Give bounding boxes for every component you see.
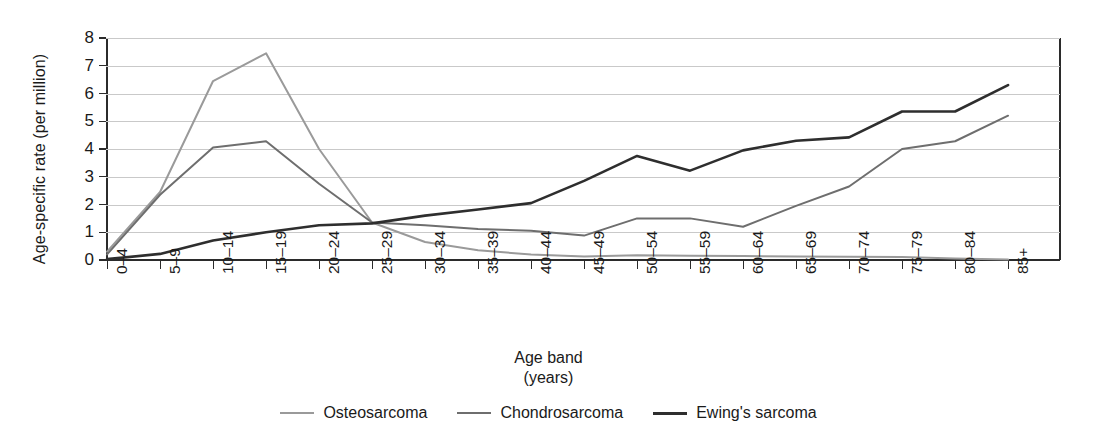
- legend-swatch: [457, 412, 491, 414]
- x-axis-tick: [107, 260, 108, 269]
- y-axis-tick-label: 7: [72, 57, 94, 74]
- x-axis-tick: [743, 260, 744, 269]
- x-axis-tick-label: 20–24: [325, 204, 343, 274]
- x-axis-tick: [1008, 260, 1009, 269]
- y-axis-tick: [99, 232, 106, 233]
- x-axis-tick-label: 45–49: [590, 204, 608, 274]
- x-axis-tick: [637, 260, 638, 269]
- x-axis-tick-label: 0–4: [113, 204, 131, 274]
- x-axis-tick: [955, 260, 956, 269]
- x-axis-tick: [531, 260, 532, 269]
- x-axis-tick-label: 80–84: [961, 204, 979, 274]
- x-axis-tick-label: 85+: [1014, 204, 1032, 274]
- x-axis-tick-label: 50–54: [643, 204, 661, 274]
- y-axis-tick-label: 6: [72, 85, 94, 102]
- x-axis-tick: [160, 260, 161, 269]
- x-axis-tick: [319, 260, 320, 269]
- y-axis-tick-label: 5: [72, 112, 94, 129]
- x-axis-tick-label: 70–74: [855, 204, 873, 274]
- x-axis-tick-label: 65–69: [802, 204, 820, 274]
- x-axis-title: Age band (years): [0, 348, 1097, 387]
- x-axis-title-main: Age band: [0, 348, 1097, 368]
- chart-legend: OsteosarcomaChondrosarcomaEwing's sarcom…: [0, 404, 1097, 422]
- legend-label: Ewing's sarcoma: [696, 404, 816, 422]
- legend-swatch: [653, 412, 687, 415]
- x-axis-title-unit: (years): [0, 368, 1097, 388]
- y-axis-tick: [99, 93, 106, 94]
- x-axis-tick-label: 15–19: [272, 204, 290, 274]
- y-axis-tick: [99, 148, 106, 149]
- x-axis-tick: [584, 260, 585, 269]
- y-axis-tick-label: 0: [72, 251, 94, 268]
- x-axis-tick-label: 25–29: [378, 204, 396, 274]
- legend-item[interactable]: Osteosarcoma: [280, 404, 427, 422]
- y-axis-tick: [99, 121, 106, 122]
- chart-figure: Age-specific rate (per million) 01234567…: [0, 0, 1097, 445]
- y-axis-tick-label: 1: [72, 223, 94, 240]
- y-axis-tick-label: 3: [72, 168, 94, 185]
- x-axis-tick: [372, 260, 373, 269]
- legend-item[interactable]: Chondrosarcoma: [457, 404, 623, 422]
- legend-swatch: [280, 412, 314, 414]
- y-axis-tick: [99, 204, 106, 205]
- x-axis-tick: [902, 260, 903, 269]
- x-axis-tick-label: 75–79: [908, 204, 926, 274]
- y-axis-tick-label: 4: [72, 140, 94, 157]
- y-axis-tick: [99, 37, 106, 38]
- x-axis-tick: [796, 260, 797, 269]
- x-axis-tick: [266, 260, 267, 269]
- x-axis-tick: [478, 260, 479, 269]
- x-axis-tick: [849, 260, 850, 269]
- x-axis-tick: [425, 260, 426, 269]
- x-axis-tick-label: 55–59: [696, 204, 714, 274]
- y-axis-tick: [99, 65, 106, 66]
- x-axis-tick-label: 30–34: [431, 204, 449, 274]
- x-axis-tick-label: 60–64: [749, 204, 767, 274]
- legend-item[interactable]: Ewing's sarcoma: [653, 404, 816, 422]
- y-axis-tick-label: 8: [72, 29, 94, 46]
- x-axis-tick-label: 5–9: [166, 204, 184, 274]
- legend-label: Osteosarcoma: [323, 404, 427, 422]
- legend-label: Chondrosarcoma: [500, 404, 623, 422]
- y-axis-tick: [99, 176, 106, 177]
- x-axis-tick: [213, 260, 214, 269]
- y-axis-tick: [99, 259, 106, 260]
- x-axis-tick: [690, 260, 691, 269]
- y-axis-tick-label: 2: [72, 196, 94, 213]
- x-axis-tick-label: 40–44: [537, 204, 555, 274]
- y-axis-title: Age-specific rate (per million): [31, 34, 49, 284]
- x-axis-tick-label: 10–14: [219, 204, 237, 274]
- x-axis-tick-label: 35–39: [484, 204, 502, 274]
